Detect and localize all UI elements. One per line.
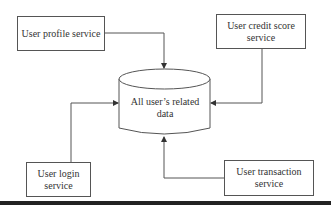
edge-login-to-store [71, 103, 118, 162]
service-label-login: User login service [30, 168, 87, 192]
bottom-divider [0, 201, 331, 205]
service-box-profile: User profile service [17, 16, 105, 51]
database-label: All user’s related data [122, 96, 208, 120]
service-box-login: User login service [26, 162, 91, 197]
edge-profile-to-store [104, 33, 164, 68]
service-label-transaction: User transaction service [228, 166, 310, 190]
service-label-profile: User profile service [22, 28, 101, 40]
edge-transaction-to-store [164, 137, 224, 178]
edge-credit-to-store [211, 48, 262, 103]
service-box-transaction: User transaction service [224, 160, 314, 196]
service-box-credit: User credit score service [216, 14, 306, 49]
service-label-credit: User credit score service [220, 20, 302, 44]
